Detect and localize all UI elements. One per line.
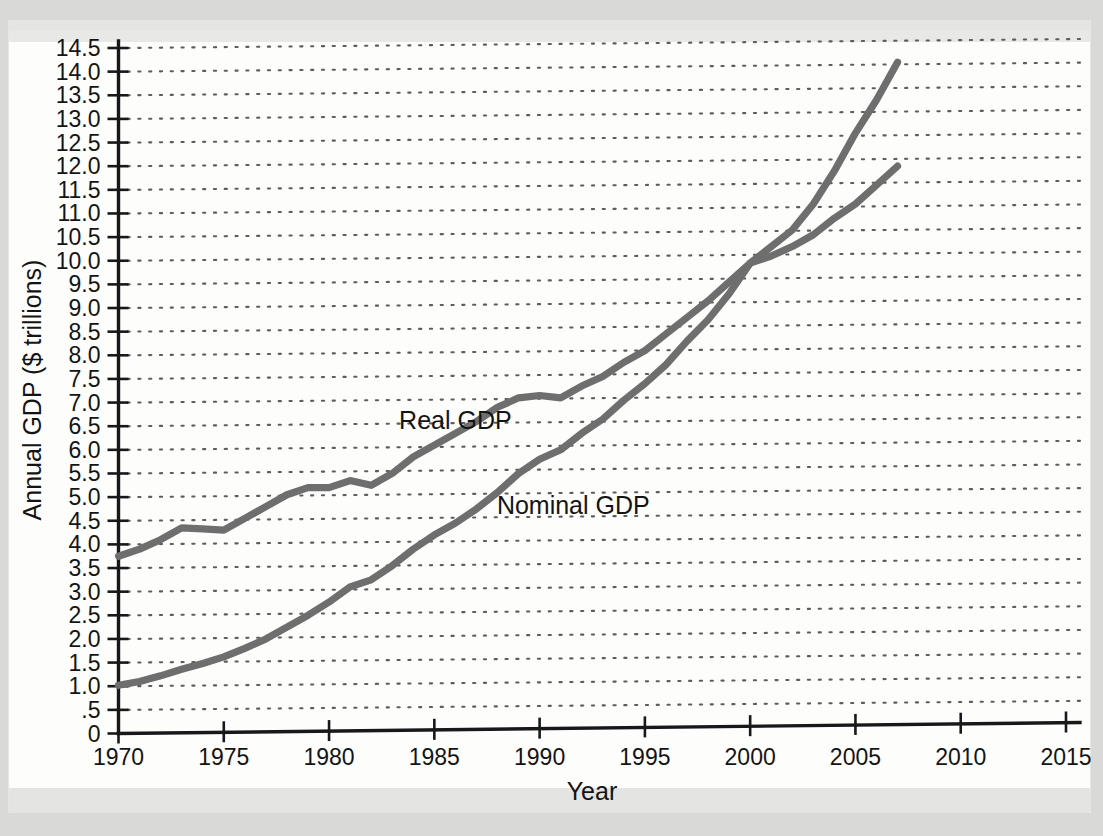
y-axis-tick-label: 2.0 bbox=[69, 626, 101, 652]
gridline bbox=[128, 134, 1081, 143]
series-annotations-group: Real GDPNominal GDP bbox=[399, 406, 650, 519]
gridline bbox=[128, 701, 1081, 710]
y-axis-tick-label: 7.0 bbox=[69, 390, 101, 416]
y-axis-tick-label: 5.0 bbox=[69, 484, 101, 510]
gridline bbox=[128, 110, 1081, 119]
x-axis-tick-label: 2005 bbox=[830, 744, 881, 770]
y-axis-tick-label: 6.5 bbox=[69, 413, 101, 439]
y-axis-tick-label: 10.5 bbox=[56, 224, 101, 250]
y-axis-tick-label: 1.5 bbox=[69, 650, 101, 676]
chart-svg: 0.51.01.52.02.53.03.54.04.55.05.56.06.57… bbox=[0, 0, 1103, 836]
gridline bbox=[128, 677, 1081, 686]
gridline bbox=[128, 299, 1081, 308]
y-axis-tick-label: .5 bbox=[81, 697, 100, 723]
data-series-group bbox=[119, 62, 898, 685]
y-axis-tick-label: 9.0 bbox=[69, 295, 101, 321]
x-axis-tick-label: 1970 bbox=[93, 744, 144, 770]
y-axis-tick-labels-group: 0.51.01.52.02.53.03.54.04.55.05.56.06.57… bbox=[56, 35, 101, 747]
gridline bbox=[128, 394, 1081, 403]
y-axis-tick-label: 14.5 bbox=[56, 35, 101, 61]
x-axis-title: Year bbox=[567, 777, 618, 805]
gridline bbox=[128, 654, 1081, 663]
x-axis-tick-label: 2015 bbox=[1040, 744, 1091, 770]
gridline bbox=[128, 252, 1081, 261]
y-axis-tick-label: 2.5 bbox=[69, 602, 101, 628]
gridline bbox=[128, 275, 1081, 284]
y-axis-tick-label: 14.0 bbox=[56, 59, 101, 85]
y-axis-tick-label: 13.0 bbox=[56, 106, 101, 132]
y-axis-title: Annual GDP ($ trillions) bbox=[18, 260, 46, 521]
x-axis-tick-label: 1990 bbox=[514, 744, 565, 770]
y-axis-tick-label: 6.0 bbox=[69, 437, 101, 463]
gridline bbox=[128, 228, 1081, 237]
series-annotation-nominal-gdp: Nominal GDP bbox=[497, 491, 650, 519]
y-axis-tick-label: 8.5 bbox=[69, 319, 101, 345]
gridline bbox=[128, 606, 1081, 615]
y-axis-tick-label: 3.5 bbox=[69, 555, 101, 581]
y-axis-tick-label: 8.0 bbox=[69, 342, 101, 368]
y-axis-tick-label: 12.5 bbox=[56, 130, 101, 156]
x-axis-tick-label: 1980 bbox=[303, 744, 354, 770]
gridline bbox=[128, 464, 1081, 473]
x-axis-tick-label: 2010 bbox=[935, 744, 986, 770]
y-axis-tick-label: 11.5 bbox=[57, 177, 100, 203]
gridline bbox=[128, 63, 1081, 72]
x-axis-tick-label: 1985 bbox=[409, 744, 460, 770]
x-axis-tick-label: 2000 bbox=[725, 744, 776, 770]
y-axis-tick-label: 1.0 bbox=[69, 673, 101, 699]
gdp-line-chart: 0.51.01.52.02.53.03.54.04.55.05.56.06.57… bbox=[0, 0, 1103, 836]
gridline bbox=[128, 559, 1081, 568]
gridline bbox=[128, 346, 1081, 355]
y-axis-tick-label: 5.5 bbox=[69, 460, 101, 486]
y-axis-tick-label: 4.0 bbox=[69, 531, 101, 557]
x-axis-tick-labels-group: 1970197519801985199019952000200520102015 bbox=[93, 744, 1092, 770]
y-axis-tick-label: 4.5 bbox=[69, 508, 101, 534]
x-axis-tick-label: 1995 bbox=[619, 744, 670, 770]
gridline bbox=[128, 441, 1081, 450]
x-axis-tick-label: 1975 bbox=[198, 744, 249, 770]
gridline bbox=[128, 535, 1081, 544]
series-line-nominal-gdp bbox=[119, 62, 898, 685]
y-axis-tick-label: 10.0 bbox=[56, 248, 101, 274]
y-axis-tick-label: 13.5 bbox=[56, 82, 101, 108]
y-axis-tick-label: 12.0 bbox=[56, 153, 101, 179]
x-axis-line bbox=[119, 723, 1081, 734]
y-axis-tick-label: 11.0 bbox=[57, 200, 100, 226]
y-axis-tick-label: 9.5 bbox=[69, 271, 101, 297]
y-axis-tick-label: 7.5 bbox=[69, 366, 101, 392]
y-axis-tick-label: 0 bbox=[88, 721, 101, 747]
gridline bbox=[128, 39, 1081, 48]
gridline bbox=[128, 323, 1081, 332]
screenshot-canvas: 0.51.01.52.02.53.03.54.04.55.05.56.06.57… bbox=[0, 0, 1103, 836]
gridline bbox=[128, 204, 1081, 213]
gridline bbox=[128, 157, 1081, 166]
gridline bbox=[128, 181, 1081, 190]
y-axis-tick-label: 3.0 bbox=[69, 579, 101, 605]
gridline bbox=[128, 583, 1081, 592]
gridline bbox=[128, 86, 1081, 95]
series-annotation-real-gdp: Real GDP bbox=[399, 406, 512, 434]
